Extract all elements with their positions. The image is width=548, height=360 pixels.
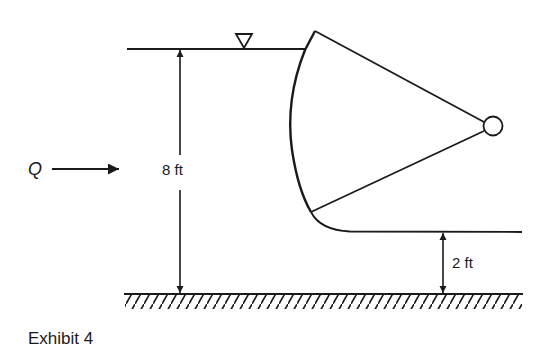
downstream-depth-label: 2 ft [452, 254, 473, 271]
gate-hinge-icon [484, 117, 503, 136]
gate-lower-strut [311, 131, 484, 212]
water-surface-symbol-icon [236, 34, 252, 48]
flow-label: Q [28, 159, 42, 180]
gate-skin-plate [290, 31, 315, 212]
tainter-gate-diagram [0, 0, 548, 360]
upstream-depth-label: 8 ft [162, 160, 183, 179]
figure-caption: Exhibit 4 [28, 329, 93, 349]
downstream-water-surface [311, 212, 522, 232]
gate-upper-strut [315, 31, 484, 122]
channel-bed-hatching [125, 295, 522, 309]
